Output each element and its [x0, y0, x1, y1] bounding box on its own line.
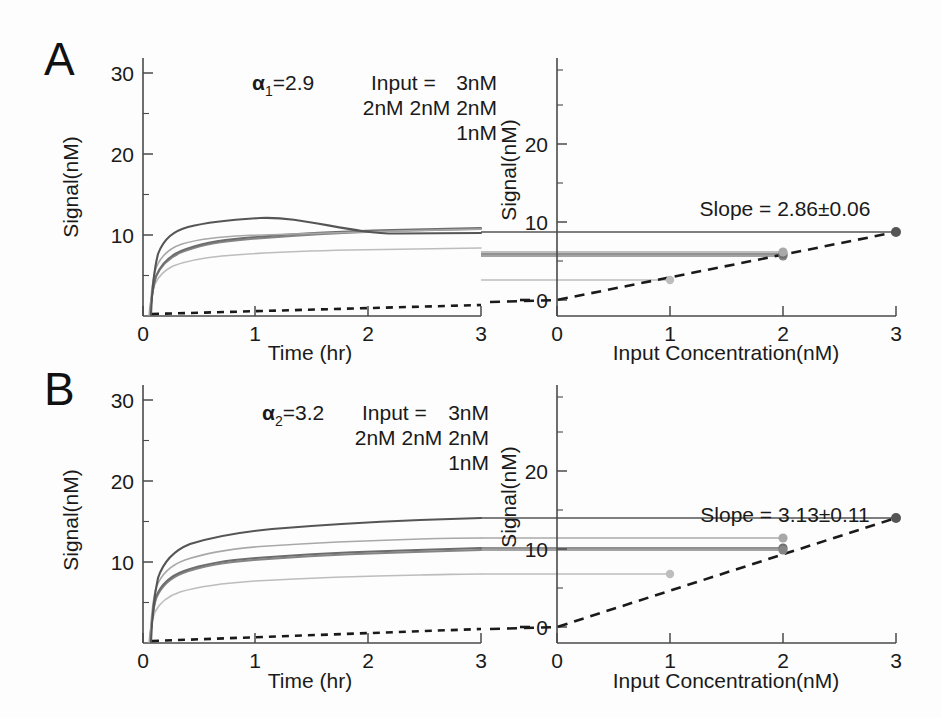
panel-a-left-xlabel-1: 1 [249, 322, 261, 345]
panel-b-letter: B [44, 363, 75, 415]
panel-a-alpha-value: =2.9 [273, 71, 314, 94]
panel-a: A 10 20 30 [44, 33, 902, 364]
panel-a-bridge-lines [481, 232, 896, 280]
panel-b-left-xlabel-0: 0 [137, 649, 149, 672]
panel-b-left-xlabel-2: 2 [362, 649, 374, 672]
panel-a-alpha-subscript: 1 [265, 83, 273, 99]
panel-a-left-xlabel-3: 3 [475, 322, 487, 345]
panel-a-input-row-bottom: 1nM [456, 121, 497, 144]
figure-root: A 10 20 30 [0, 0, 941, 718]
panel-a-left-ylabel-10: 10 [111, 224, 134, 247]
panel-b-point-1nm [666, 570, 674, 578]
panel-b-input-header: Input = [362, 401, 427, 424]
panel-a-annotations: α1=2.9 Input = 3nM 2nM 2nM 2nM 1nM [252, 71, 497, 144]
panel-a-left-yaxis-title: Signal(nM) [59, 136, 82, 238]
panel-a-alpha-block: α1=2.9 [252, 71, 314, 99]
panel-a-point-1nm [666, 276, 674, 284]
panel-b-right-ylabel-20: 20 [525, 460, 548, 483]
panel-a-trace-2nm-b [150, 228, 481, 315]
panel-b-input-row-top: 3nM [448, 401, 489, 424]
panel-b-left-yaxis-title: Signal(nM) [59, 469, 82, 571]
panel-a-left-xlabel-2: 2 [362, 322, 374, 345]
panel-b-baseline-dashed [152, 629, 481, 641]
panel-a-input-row-middle: 2nM 2nM 2nM [363, 96, 497, 119]
panel-a-left-xaxis-title: Time (hr) [268, 341, 352, 364]
panel-a-right-ylabel-20: 20 [525, 133, 548, 156]
panel-b-input-row-middle: 2nM 2nM 2nM [355, 426, 489, 449]
panel-a-trace-1nm [149, 248, 481, 315]
panel-a-point-2nm-a [778, 247, 787, 256]
panel-a-trace-2nm-a [150, 229, 481, 315]
panel-b-trace-2nm-b [150, 548, 481, 642]
panel-a-right-xlabel-3: 3 [890, 322, 902, 345]
panel-b-trace-2nm-c [150, 550, 481, 642]
panel-a-right-ylabel-10: 10 [525, 211, 548, 234]
panel-b-right-yaxis-title: Signal(nM) [497, 446, 520, 548]
panel-a-letter: A [44, 33, 75, 85]
panel-b-alpha-block: α2=3.2 [262, 401, 324, 429]
panel-a-left-xlabel-0: 0 [137, 322, 149, 345]
panel-b-trace-3nm [151, 518, 481, 642]
panel-b-alpha-value: =3.2 [283, 401, 324, 424]
panel-a-trace-2nm-c [150, 229, 481, 315]
panel-a-input-header: Input = [371, 71, 436, 94]
panel-b-right-xaxis-title: Input Concentration(nM) [613, 669, 839, 692]
panel-a-slope-annotation: Slope = 2.86±0.06 [700, 197, 871, 220]
panel-a-left-ylabel-30: 30 [111, 62, 134, 85]
panel-b-point-2nm-c [778, 545, 787, 554]
panel-b-slope-annotation: Slope = 3.13±0.11 [700, 503, 869, 526]
panel-b-alpha-symbol: α [262, 401, 275, 424]
panel-b-left-xlabel-1: 1 [249, 649, 261, 672]
panel-a-input-row-top: 3nM [456, 71, 497, 94]
panel-b-left-xaxis-title: Time (hr) [268, 669, 352, 692]
panel-a-baseline-dashed [152, 305, 481, 314]
panel-b-right-xlabel-3: 3 [890, 649, 902, 672]
panel-b-left-ylabel-30: 30 [111, 389, 134, 412]
panel-b-right-xlabel-0: 0 [551, 649, 563, 672]
panel-b-right-ylabel-10: 10 [525, 538, 548, 561]
panel-b-point-2nm-a [778, 533, 787, 542]
panel-a-fit-line [490, 232, 896, 302]
panel-a-point-3nm [891, 227, 901, 237]
panel-a-right-yaxis-title: Signal(nM) [497, 119, 520, 221]
panel-b-annotations: α2=3.2 Input = 3nM 2nM 2nM 2nM 1nM [262, 401, 489, 474]
panel-b-alpha-subscript: 2 [275, 413, 283, 429]
figure-canvas: A 10 20 30 [0, 0, 941, 718]
panel-a-alpha-symbol: α [252, 71, 265, 94]
panel-b-left-xlabel-3: 3 [475, 649, 487, 672]
panel-a-right-plot: 0 10 20 0 1 2 3 Input Concentration(nM) … [490, 58, 902, 364]
panel-b-left-ylabel-10: 10 [111, 551, 134, 574]
panel-a-right-xlabel-0: 0 [551, 322, 563, 345]
panel-b-left-ylabel-20: 20 [111, 470, 134, 493]
panel-b: B 10 20 30 0 1 2 [44, 363, 902, 692]
panel-b-point-3nm [891, 513, 901, 523]
panel-b-input-row-bottom: 1nM [448, 451, 489, 474]
panel-a-left-ylabel-20: 20 [111, 143, 134, 166]
panel-a-right-xaxis-title: Input Concentration(nM) [613, 341, 839, 364]
